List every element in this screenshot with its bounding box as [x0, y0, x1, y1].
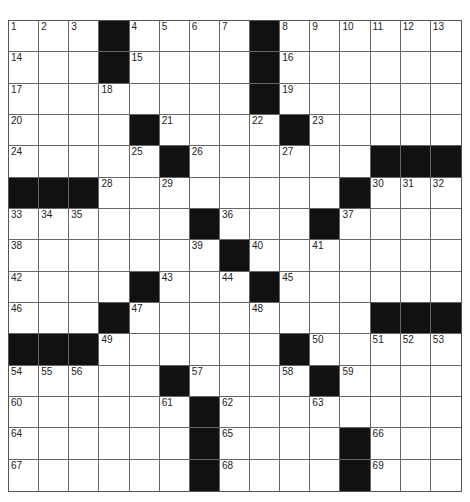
grid-cell[interactable] — [220, 115, 250, 146]
grid-cell[interactable] — [250, 334, 280, 365]
grid-cell[interactable]: 24 — [9, 146, 39, 177]
grid-cell[interactable] — [69, 272, 99, 303]
grid-cell[interactable]: 14 — [9, 52, 39, 83]
grid-cell[interactable] — [280, 178, 310, 209]
grid-cell[interactable]: 38 — [9, 240, 39, 271]
grid-cell[interactable] — [280, 240, 310, 271]
grid-cell[interactable] — [401, 209, 431, 240]
grid-cell[interactable] — [371, 397, 401, 428]
grid-cell[interactable] — [160, 334, 190, 365]
grid-cell[interactable]: 45 — [280, 272, 310, 303]
grid-cell[interactable] — [340, 334, 370, 365]
grid-cell[interactable]: 68 — [220, 460, 250, 491]
grid-cell[interactable]: 32 — [431, 178, 461, 209]
grid-cell[interactable] — [99, 397, 129, 428]
grid-cell[interactable] — [130, 397, 160, 428]
grid-cell[interactable] — [280, 428, 310, 459]
grid-cell[interactable]: 23 — [310, 115, 340, 146]
grid-cell[interactable] — [39, 303, 69, 334]
grid-cell[interactable] — [39, 52, 69, 83]
grid-cell[interactable] — [160, 240, 190, 271]
grid-cell[interactable]: 29 — [160, 178, 190, 209]
grid-cell[interactable]: 36 — [220, 209, 250, 240]
grid-cell[interactable] — [401, 52, 431, 83]
grid-cell[interactable] — [431, 460, 461, 491]
grid-cell[interactable] — [401, 272, 431, 303]
grid-cell[interactable] — [431, 52, 461, 83]
grid-cell[interactable]: 55 — [39, 366, 69, 397]
grid-cell[interactable]: 47 — [130, 303, 160, 334]
grid-cell[interactable] — [190, 303, 220, 334]
grid-cell[interactable] — [99, 460, 129, 491]
grid-cell[interactable] — [160, 209, 190, 240]
grid-cell[interactable] — [220, 84, 250, 115]
grid-cell[interactable] — [280, 209, 310, 240]
grid-cell[interactable] — [130, 178, 160, 209]
grid-cell[interactable] — [69, 115, 99, 146]
grid-cell[interactable]: 7 — [220, 21, 250, 52]
grid-cell[interactable]: 46 — [9, 303, 39, 334]
grid-cell[interactable] — [69, 240, 99, 271]
grid-cell[interactable]: 11 — [371, 21, 401, 52]
grid-cell[interactable]: 69 — [371, 460, 401, 491]
grid-cell[interactable] — [69, 84, 99, 115]
grid-cell[interactable] — [130, 84, 160, 115]
grid-cell[interactable] — [371, 115, 401, 146]
grid-cell[interactable] — [69, 303, 99, 334]
grid-cell[interactable] — [130, 366, 160, 397]
grid-cell[interactable]: 27 — [280, 146, 310, 177]
grid-cell[interactable]: 41 — [310, 240, 340, 271]
grid-cell[interactable] — [220, 303, 250, 334]
grid-cell[interactable] — [190, 84, 220, 115]
grid-cell[interactable]: 16 — [280, 52, 310, 83]
grid-cell[interactable] — [401, 366, 431, 397]
grid-cell[interactable] — [250, 146, 280, 177]
grid-cell[interactable] — [39, 428, 69, 459]
grid-cell[interactable] — [160, 460, 190, 491]
grid-cell[interactable] — [220, 52, 250, 83]
grid-cell[interactable] — [401, 240, 431, 271]
grid-cell[interactable]: 33 — [9, 209, 39, 240]
grid-cell[interactable]: 53 — [431, 334, 461, 365]
grid-cell[interactable] — [371, 52, 401, 83]
grid-cell[interactable]: 1 — [9, 21, 39, 52]
grid-cell[interactable] — [190, 52, 220, 83]
grid-cell[interactable] — [130, 240, 160, 271]
grid-cell[interactable] — [310, 52, 340, 83]
grid-cell[interactable] — [220, 366, 250, 397]
grid-cell[interactable] — [280, 397, 310, 428]
grid-cell[interactable] — [431, 115, 461, 146]
grid-cell[interactable]: 25 — [130, 146, 160, 177]
grid-cell[interactable] — [310, 428, 340, 459]
grid-cell[interactable] — [401, 115, 431, 146]
grid-cell[interactable]: 8 — [280, 21, 310, 52]
grid-cell[interactable]: 13 — [431, 21, 461, 52]
grid-cell[interactable] — [310, 146, 340, 177]
grid-cell[interactable]: 60 — [9, 397, 39, 428]
grid-cell[interactable] — [250, 178, 280, 209]
grid-cell[interactable] — [99, 272, 129, 303]
grid-cell[interactable] — [371, 209, 401, 240]
grid-cell[interactable]: 40 — [250, 240, 280, 271]
grid-cell[interactable]: 37 — [340, 209, 370, 240]
grid-cell[interactable] — [39, 115, 69, 146]
grid-cell[interactable] — [371, 240, 401, 271]
grid-cell[interactable]: 22 — [250, 115, 280, 146]
grid-cell[interactable]: 18 — [99, 84, 129, 115]
grid-cell[interactable] — [160, 303, 190, 334]
grid-cell[interactable] — [431, 240, 461, 271]
grid-cell[interactable]: 31 — [401, 178, 431, 209]
grid-cell[interactable]: 2 — [39, 21, 69, 52]
grid-cell[interactable]: 12 — [401, 21, 431, 52]
grid-cell[interactable]: 51 — [371, 334, 401, 365]
grid-cell[interactable]: 66 — [371, 428, 401, 459]
grid-cell[interactable] — [280, 303, 310, 334]
grid-cell[interactable] — [220, 334, 250, 365]
grid-cell[interactable] — [340, 52, 370, 83]
grid-cell[interactable]: 30 — [371, 178, 401, 209]
grid-cell[interactable]: 64 — [9, 428, 39, 459]
grid-cell[interactable] — [160, 84, 190, 115]
grid-cell[interactable]: 20 — [9, 115, 39, 146]
grid-cell[interactable] — [69, 52, 99, 83]
grid-cell[interactable] — [130, 460, 160, 491]
